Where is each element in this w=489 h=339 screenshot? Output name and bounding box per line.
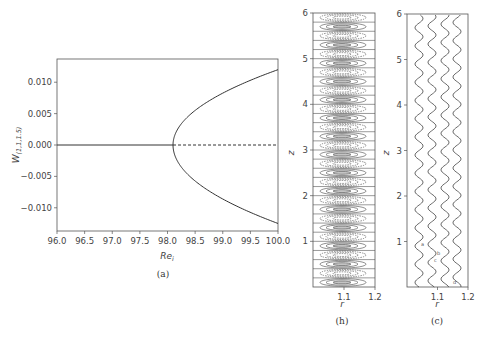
- z-tick-label: 1: [303, 236, 308, 246]
- contour-mid: [326, 88, 358, 93]
- contour-mid: [326, 70, 358, 75]
- y-tick-label: 0.005: [28, 109, 52, 119]
- panel-b-ylabel: z: [286, 150, 296, 156]
- contour-inner: [333, 272, 351, 275]
- r-tick-label: 1.2: [461, 292, 475, 302]
- contour-inner: [333, 217, 351, 220]
- x-tick-label: 97.0: [103, 236, 122, 246]
- y-tick-label: 0.000: [28, 140, 52, 150]
- contour-mid: [326, 234, 358, 239]
- contour-inner: [333, 244, 351, 247]
- figure: 96.096.597.097.598.098.599.099.5100.00.0…: [0, 0, 489, 339]
- streamline-annotation: a: [421, 241, 424, 247]
- contour-inner: [333, 254, 351, 257]
- contour-mid: [326, 179, 358, 184]
- contour-inner: [333, 53, 351, 56]
- x-tick-label: 100.0: [266, 236, 290, 246]
- contour-inner: [333, 281, 351, 284]
- z-tick-label: 2: [303, 191, 308, 201]
- contour-inner: [333, 190, 351, 193]
- x-tick-label: 96.0: [48, 236, 67, 246]
- contour-inner: [333, 181, 351, 184]
- x-tick-label: 99.5: [241, 236, 260, 246]
- y-tick-label: 0.010: [28, 77, 52, 87]
- contour-inner: [333, 208, 351, 211]
- streamline-annotation: c: [434, 257, 437, 263]
- x-tick-label: 98.5: [186, 236, 205, 246]
- panel-a-ticks: 96.096.597.097.598.098.599.099.5100.00.0…: [21, 77, 291, 246]
- contour-inner: [333, 263, 351, 266]
- streamline-annotation: b: [437, 250, 440, 256]
- contour-inner: [333, 135, 351, 138]
- contour-mid: [326, 124, 358, 129]
- x-tick-label: 97.5: [130, 236, 149, 246]
- panel-a-bifurcation-plot: 96.096.597.097.598.098.599.099.5100.00.0…: [11, 59, 290, 279]
- contour-inner: [333, 34, 351, 37]
- z-tick-label: 6: [303, 8, 308, 18]
- contour-mid: [326, 252, 358, 257]
- z-tick-label: 1: [397, 237, 402, 247]
- contour-mid: [326, 106, 358, 111]
- contour-inner: [333, 89, 351, 92]
- z-tick-label: 3: [303, 145, 308, 155]
- contour-inner: [333, 117, 351, 120]
- contour-mid: [326, 216, 358, 221]
- streamline: [441, 15, 449, 287]
- r-tick-label: 1.2: [368, 292, 382, 302]
- contour-inner: [333, 62, 351, 65]
- streamline: [428, 15, 436, 287]
- streamline-annotation: d: [453, 279, 456, 285]
- pitchfork-branch: [173, 145, 278, 223]
- panel-c-frame: [407, 14, 468, 287]
- streamline: [453, 15, 461, 287]
- contour-inner: [333, 226, 351, 229]
- contour-mid: [326, 15, 358, 20]
- pitchfork-branch: [173, 70, 278, 145]
- contour-inner: [333, 153, 351, 156]
- y-tick-label: −0.010: [21, 203, 52, 213]
- y-tick-label: −0.005: [21, 171, 52, 181]
- contour-inner: [333, 144, 351, 147]
- contour-mid: [326, 197, 358, 202]
- contour-mid: [326, 161, 358, 166]
- panel-c-caption: (c): [431, 316, 443, 326]
- z-tick-label: 4: [303, 99, 308, 109]
- panel-a-branches: [57, 70, 278, 224]
- z-tick-label: 2: [397, 191, 402, 201]
- z-tick-label: 5: [397, 55, 402, 65]
- contour-inner: [333, 25, 351, 28]
- contour-inner: [333, 98, 351, 101]
- panel-a-xlabel: Rei: [160, 251, 174, 263]
- panel-c-wavy-lines: abcd: [415, 15, 461, 287]
- contour-inner: [333, 162, 351, 165]
- panel-a-caption: (a): [157, 269, 169, 279]
- contour-mid: [326, 143, 358, 148]
- contour-inner: [333, 126, 351, 129]
- z-tick-label: 5: [303, 54, 308, 64]
- panel-c-streamline-plot: abcd 1234561.11.2 r z (c): [381, 9, 475, 326]
- z-tick-label: 3: [397, 146, 402, 156]
- x-tick-label: 99.0: [213, 236, 232, 246]
- x-tick-label: 96.5: [75, 236, 94, 246]
- contour-mid: [326, 51, 358, 56]
- contour-inner: [333, 107, 351, 110]
- contour-inner: [333, 71, 351, 74]
- contour-inner: [333, 199, 351, 202]
- panel-b-caption: (h): [336, 316, 349, 326]
- panel-c-ylabel: z: [381, 150, 391, 156]
- contour-inner: [333, 171, 351, 174]
- panel-b-vortex-cells: [313, 14, 375, 287]
- contour-inner: [333, 235, 351, 238]
- contour-mid: [326, 271, 358, 276]
- z-tick-label: 6: [397, 9, 402, 19]
- contour-inner: [333, 80, 351, 83]
- contour-inner: [333, 44, 351, 47]
- x-tick-label: 98.0: [158, 236, 177, 246]
- contour-inner: [333, 16, 351, 19]
- z-tick-label: 4: [397, 100, 402, 110]
- panel-b-contour-plot: 1234561.11.2 r z (h): [286, 8, 382, 326]
- contour-mid: [326, 33, 358, 38]
- panel-a-ylabel: W(1,1,1.5): [11, 127, 23, 164]
